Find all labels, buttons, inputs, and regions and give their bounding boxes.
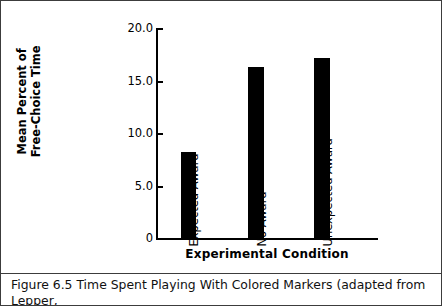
y-tick-mark-5 [156,186,163,188]
y-tick-label-5: 5.0 [109,181,153,193]
figure-caption-number: Figure 6.5 [11,277,72,292]
bar-label-no-award: No Award [257,192,269,247]
y-axis-title-line2: Free-Choice Time [29,21,43,181]
y-tick-mark-10 [156,133,163,135]
y-axis-title-line1: Mean Percent of [15,21,29,181]
chart-plot-area: Mean Percent of Free-Choice Time 20.0 15… [1,1,442,269]
figure-caption-line1: Time Spent Playing With Colored Markers … [11,277,425,306]
bar-label-unexpected-award: Unexpected Award [323,138,335,246]
bar-label-expected-award: Expected Award [189,154,201,247]
y-axis-title: Mean Percent of Free-Choice Time [15,21,44,181]
figure-container: Mean Percent of Free-Choice Time 20.0 15… [0,0,442,306]
y-axis-tick-labels: 20.0 15.0 10.0 5.0 0 [105,1,153,251]
y-tick-label-20: 20.0 [109,23,153,35]
y-tick-mark-15 [156,81,163,83]
y-tick-mark-20 [156,28,163,30]
y-tick-label-0: 0 [109,233,153,245]
x-axis-title: Experimental Condition [156,247,378,261]
caption-divider [1,273,442,274]
figure-caption: Figure 6.5 Time Spent Playing With Color… [1,277,442,306]
y-tick-label-10: 10.0 [109,128,153,140]
y-tick-label-15: 15.0 [109,76,153,88]
